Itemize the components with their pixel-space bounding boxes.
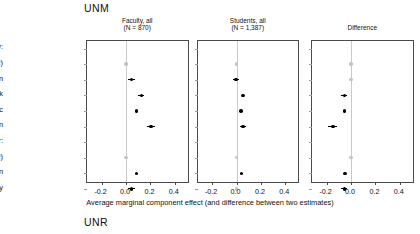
x-tick-label: 0.0 — [231, 187, 241, 196]
plot-panel-2 — [197, 40, 300, 183]
estimate-dot — [135, 172, 139, 176]
group-label-top: UNM — [84, 2, 109, 14]
y-axis-tick — [195, 80, 198, 81]
y-axis-tick — [309, 64, 312, 65]
y-axis-tick — [84, 80, 87, 81]
estimate-dot — [241, 125, 245, 129]
y-axis-tick — [84, 95, 87, 96]
y-axis-tick — [195, 173, 198, 174]
panel-title-3: Difference — [311, 24, 414, 32]
x-axis-tick — [400, 182, 401, 185]
y-axis-tick — [309, 127, 312, 128]
y-axis-tick — [84, 142, 87, 143]
row-group-header: Gender: — [0, 137, 3, 145]
x-tick-label: -0.2 — [94, 187, 106, 196]
y-axis-tick — [84, 111, 87, 112]
estimate-dot — [349, 62, 353, 66]
x-tick-label: 0.2 — [369, 187, 379, 196]
y-axis-tick — [309, 189, 312, 190]
x-axis-tick — [351, 182, 352, 185]
panel-title-2: Students, all(N = 1,387) — [197, 17, 300, 32]
x-axis-tick — [102, 182, 103, 185]
y-axis-tick — [195, 158, 198, 159]
x-axis-caption: Average marginal component effect (and d… — [0, 198, 420, 207]
row-label: Nonbinary — [0, 184, 3, 192]
estimate-dot — [140, 94, 144, 98]
y-axis-tick — [195, 127, 198, 128]
y-axis-tick — [309, 173, 312, 174]
x-tick-label: 0.4 — [394, 187, 404, 196]
y-axis-tick — [84, 49, 87, 50]
y-axis-tick — [195, 111, 198, 112]
estimate-dot — [239, 109, 243, 113]
y-axis-tick — [195, 189, 198, 190]
x-tick-label: 0.2 — [144, 187, 154, 196]
estimate-dot — [349, 156, 353, 160]
y-axis-tick — [195, 142, 198, 143]
row-label: Man (baseline) — [0, 153, 3, 161]
estimate-dot — [135, 109, 139, 113]
estimate-dot — [235, 156, 239, 160]
estimate-dot — [130, 78, 134, 82]
y-axis-tick — [195, 95, 198, 96]
x-axis-tick — [126, 182, 127, 185]
estimate-dot — [234, 78, 238, 82]
estimate-dot — [343, 94, 347, 98]
x-tick-label: 0.0 — [120, 187, 130, 196]
x-tick-label: 0.2 — [255, 187, 265, 196]
panel-title-line1: Faculty, all — [86, 17, 189, 25]
estimate-dot — [124, 62, 128, 66]
estimate-dot — [343, 172, 347, 176]
row-label: Native American — [0, 121, 3, 129]
panel-title-line1: Students, all — [197, 17, 300, 25]
y-axis-tick — [84, 189, 87, 190]
row-label: Black — [0, 90, 3, 98]
estimate-dot — [331, 125, 335, 129]
row-label: Woman — [0, 168, 3, 176]
y-axis-tick — [309, 80, 312, 81]
y-axis-tick — [309, 111, 312, 112]
row-label: Asian — [0, 75, 3, 83]
x-axis-tick — [175, 182, 176, 185]
x-tick-label: 0.4 — [169, 187, 179, 196]
row-label: White (baseline) — [0, 59, 3, 67]
panel-title-1: Faculty, all(N = 870) — [86, 17, 189, 32]
y-axis-tick — [84, 127, 87, 128]
estimate-dot — [149, 125, 153, 129]
panel-title-line1: Difference — [311, 24, 414, 32]
y-axis-tick — [309, 49, 312, 50]
x-axis-tick — [237, 182, 238, 185]
row-group-header: Race/ethnicity: — [0, 43, 3, 51]
estimate-dot — [343, 109, 347, 113]
y-axis-tick — [309, 95, 312, 96]
x-axis-tick — [327, 182, 328, 185]
group-label-bottom: UNR — [84, 216, 108, 228]
y-axis-tick — [309, 158, 312, 159]
x-axis-tick — [285, 182, 286, 185]
plot-panel-1 — [86, 40, 189, 183]
estimate-dot — [130, 187, 134, 191]
figure-canvas: UNM UNR Race/ethnicity:White (baseline)A… — [0, 0, 420, 234]
panel-title-line2: (N = 1,387) — [197, 24, 300, 32]
y-axis-tick — [309, 142, 312, 143]
x-axis-tick — [212, 182, 213, 185]
estimate-dot — [240, 172, 244, 176]
plot-panel-3 — [311, 40, 414, 183]
y-axis-tick — [195, 64, 198, 65]
x-tick-label: -0.2 — [205, 187, 217, 196]
y-axis-tick — [84, 158, 87, 159]
y-axis-tick — [84, 173, 87, 174]
x-axis-tick — [150, 182, 151, 185]
estimate-dot — [124, 156, 128, 160]
panel-title-line2: (N = 870) — [86, 24, 189, 32]
estimate-dot — [235, 62, 239, 66]
x-axis-tick — [261, 182, 262, 185]
estimate-dot — [241, 94, 245, 98]
x-tick-label: -0.2 — [319, 187, 331, 196]
estimate-dot — [349, 78, 353, 82]
x-axis-tick — [375, 182, 376, 185]
x-tick-label: 0.4 — [279, 187, 289, 196]
x-tick-label: 0.0 — [345, 187, 355, 196]
y-axis-tick — [84, 64, 87, 65]
row-label: Hispanic — [0, 106, 3, 114]
